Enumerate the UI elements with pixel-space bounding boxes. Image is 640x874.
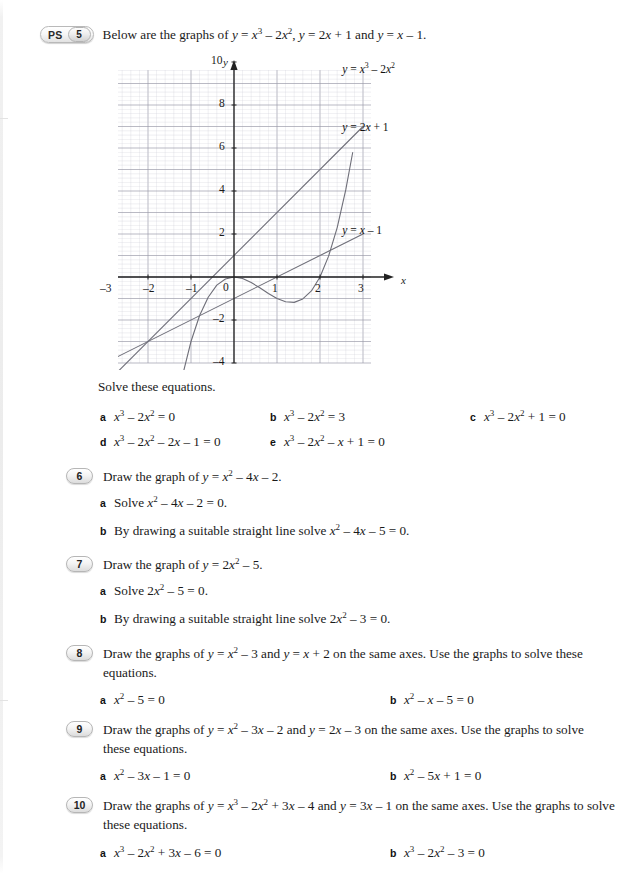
part-letter: b bbox=[270, 411, 284, 423]
part-letter: a bbox=[100, 694, 114, 706]
question-8-stem: Draw the graphs of y = x2 – 3 and y = x … bbox=[103, 645, 613, 682]
question-5-part-c: c x3 – 2x2 + 1 = 0 bbox=[470, 409, 566, 425]
question-number-8: 8 bbox=[66, 645, 93, 661]
question-9-header: 9 Draw the graphs of y = x2 – 3x – 2 and… bbox=[66, 721, 632, 758]
x-tick-label--1: –1 bbox=[186, 282, 198, 294]
question-6-stem: Draw the graph of y = x2 – 4x – 2. bbox=[103, 468, 282, 487]
question-5-part-d: d x3 – 2x2 – 2x – 1 = 0 bbox=[100, 434, 221, 450]
part-letter: d bbox=[100, 436, 114, 448]
textbook-page: PS 5 Below are the graphs of y = x3 – 2x… bbox=[0, 0, 640, 874]
part-letter: a bbox=[100, 585, 114, 597]
y-axis-label: y bbox=[223, 56, 228, 68]
part-text: x2 – 3x – 1 = 0 bbox=[114, 768, 190, 784]
y-tick-label-2: 2 bbox=[219, 226, 225, 238]
question-6-part-a: a Solve x2 – 4x – 2 = 0. bbox=[100, 495, 227, 511]
question-6-header: 6 Draw the graph of y = x2 – 4x – 2. bbox=[66, 468, 282, 487]
question-5-header: PS 5 Below are the graphs of y = x3 – 2x… bbox=[40, 26, 426, 45]
question-5-part-e: e x3 – 2x2 – x + 1 = 0 bbox=[270, 434, 385, 450]
y-tick-label--4: –4 bbox=[213, 355, 225, 367]
x-axis-label: x bbox=[401, 274, 406, 286]
question-5-stem: Below are the graphs of y = x3 – 2x2, y … bbox=[103, 26, 427, 45]
question-9-part-b: b x2 – 5x + 1 = 0 bbox=[390, 768, 481, 784]
ps-label: PS bbox=[48, 29, 63, 41]
y-tick-label-4: 4 bbox=[219, 183, 225, 195]
question-6-part-b: b By drawing a suitable straight line so… bbox=[100, 523, 409, 539]
x-tick-label-3: 3 bbox=[358, 282, 364, 294]
question-8-header: 8 Draw the graphs of y = x2 – 3 and y = … bbox=[66, 645, 632, 682]
part-letter: e bbox=[270, 436, 284, 448]
part-text: x3 – 2x2 – x + 1 = 0 bbox=[284, 434, 385, 450]
part-text: By drawing a suitable straight line solv… bbox=[114, 611, 390, 627]
question-number-7: 7 bbox=[66, 556, 93, 572]
part-letter: a bbox=[100, 770, 114, 782]
cubic-and-lines-graph bbox=[118, 60, 418, 370]
question-5-part-a: a x3 – 2x2 = 0 bbox=[100, 409, 175, 425]
y-tick-label-6: 6 bbox=[219, 140, 225, 152]
curve-label-line1: y = 2x + 1 bbox=[342, 121, 388, 133]
x-tick-label--3: –3 bbox=[100, 282, 112, 294]
part-letter: b bbox=[390, 847, 404, 859]
x-tick-label--2: –2 bbox=[143, 282, 155, 294]
part-text: Solve 2x2 – 5 = 0. bbox=[114, 583, 208, 599]
ps-badge-5: PS 5 bbox=[40, 26, 94, 43]
page-edge-tick bbox=[0, 700, 8, 701]
question-9-part-a: a x2 – 3x – 1 = 0 bbox=[100, 768, 190, 784]
part-letter: a bbox=[100, 497, 114, 509]
part-text: By drawing a suitable straight line solv… bbox=[114, 523, 409, 539]
part-text: x3 – 2x2 – 3 = 0 bbox=[404, 845, 485, 861]
question-8-part-a: a x2 – 5 = 0 bbox=[100, 692, 165, 708]
graph-figure: –3–2–11230–4–2246810yxy = x3 – 2x2y = 2x… bbox=[118, 60, 418, 370]
part-text: Solve x2 – 4x – 2 = 0. bbox=[114, 495, 227, 511]
question-8-part-b: b x2 – x – 5 = 0 bbox=[390, 692, 474, 708]
part-letter: b bbox=[100, 525, 114, 537]
question-9-stem: Draw the graphs of y = x2 – 3x – 2 and y… bbox=[103, 721, 608, 758]
y-tick-label--2: –2 bbox=[213, 312, 225, 324]
curve-label-cubic: y = x3 – 2x2 bbox=[342, 63, 395, 75]
question-7-header: 7 Draw the graph of y = 2x2 – 5. bbox=[66, 556, 263, 575]
question-number-5: 5 bbox=[68, 27, 91, 42]
part-letter: b bbox=[390, 770, 404, 782]
question-10-part-a: a x3 – 2x2 + 3x – 6 = 0 bbox=[100, 845, 221, 861]
part-text: x3 – 2x2 + 1 = 0 bbox=[484, 409, 566, 425]
part-text: x2 – x – 5 = 0 bbox=[404, 692, 474, 708]
part-text: x2 – 5 = 0 bbox=[114, 692, 165, 708]
curve-label-line2: y = x – 1 bbox=[342, 224, 382, 236]
question-number-6: 6 bbox=[66, 468, 93, 484]
question-number-9: 9 bbox=[66, 721, 93, 737]
page-edge-rule bbox=[0, 0, 3, 874]
page-edge-tick bbox=[0, 118, 8, 119]
question-10-header: 10 Draw the graphs of y = x3 – 2x2 + 3x … bbox=[66, 797, 640, 834]
part-letter: a bbox=[100, 411, 114, 423]
question-number-10: 10 bbox=[66, 797, 93, 813]
x-tick-label-2: 2 bbox=[315, 282, 321, 294]
part-letter: c bbox=[470, 411, 484, 423]
x-tick-label-1: 1 bbox=[272, 282, 278, 294]
y-tick-label-10: 10 bbox=[211, 54, 223, 66]
part-text: x3 – 2x2 + 3x – 6 = 0 bbox=[114, 845, 221, 861]
part-text: x2 – 5x + 1 = 0 bbox=[404, 768, 481, 784]
y-tick-label-8: 8 bbox=[219, 97, 225, 109]
part-letter: b bbox=[100, 613, 114, 625]
part-letter: a bbox=[100, 847, 114, 859]
question-5-part-b: b x3 – 2x2 = 3 bbox=[270, 409, 345, 425]
part-text: x3 – 2x2 – 2x – 1 = 0 bbox=[114, 434, 221, 450]
origin-label: 0 bbox=[223, 281, 229, 293]
question-7-stem: Draw the graph of y = 2x2 – 5. bbox=[103, 556, 263, 575]
question-10-part-b: b x3 – 2x2 – 3 = 0 bbox=[390, 845, 485, 861]
part-text: x3 – 2x2 = 0 bbox=[114, 409, 175, 425]
question-5-instruction: Solve these equations. bbox=[98, 378, 216, 397]
part-text: x3 – 2x2 = 3 bbox=[284, 409, 345, 425]
part-letter: b bbox=[390, 694, 404, 706]
question-7-part-a: a Solve 2x2 – 5 = 0. bbox=[100, 583, 208, 599]
question-10-stem: Draw the graphs of y = x3 – 2x2 + 3x – 4… bbox=[103, 797, 633, 834]
question-7-part-b: b By drawing a suitable straight line so… bbox=[100, 611, 390, 627]
